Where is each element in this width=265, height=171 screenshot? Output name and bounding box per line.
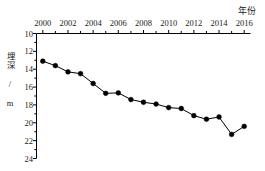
data-point-marker [179, 106, 184, 111]
chart-container: 年份 埋深 / m 200020022004200620082010201220… [0, 0, 265, 171]
data-point-marker [217, 115, 222, 120]
data-point-marker [103, 91, 108, 96]
data-point-marker [116, 90, 121, 95]
data-point-marker [40, 59, 45, 64]
data-point-marker [53, 63, 58, 68]
data-point-marker [91, 81, 96, 86]
data-point-marker [191, 113, 196, 118]
data-point-marker [242, 124, 247, 129]
data-point-marker [204, 117, 209, 122]
data-point-marker [141, 100, 146, 105]
data-point-marker [166, 105, 171, 110]
data-point-marker [154, 102, 159, 107]
data-point-marker [78, 71, 83, 76]
data-point-marker [66, 69, 71, 74]
data-series-line [43, 61, 244, 134]
plot-area [0, 0, 265, 171]
data-point-marker [129, 97, 134, 102]
data-point-marker [229, 132, 234, 137]
